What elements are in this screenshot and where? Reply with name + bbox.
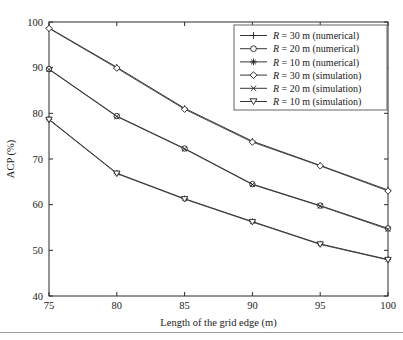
y-tick-label: 40 [33,291,44,302]
y-tick-label: 80 [33,108,44,119]
series-line [49,119,388,259]
x-tick-label: 85 [179,300,190,311]
bottom-divider [0,332,403,333]
legend-label: R = 20 m (numerical) [272,43,359,55]
series-5 [46,117,391,263]
x-tick-label: 100 [380,300,396,311]
series-2 [46,116,391,263]
legend-label: R = 20 m (simulation) [272,83,361,95]
y-tick-label: 50 [33,245,44,256]
y-tick-label: 100 [27,17,43,28]
marker-diamond [46,25,52,31]
y-tick-label: 90 [33,62,44,73]
marker-circle [251,46,257,52]
legend-label: R = 10 m (numerical) [272,57,359,69]
legend-label: R = 30 m (numerical) [272,30,359,42]
x-tick-label: 95 [315,300,326,311]
x-tick-label: 80 [112,300,123,311]
x-tick-label: 90 [247,300,258,311]
x-tick-label: 75 [44,300,55,311]
y-axis-title: ACP (%) [5,139,17,178]
figure-container: 7580859095100405060708090100Length of th… [0,0,403,340]
marker-diamond [385,188,391,194]
chart-plot: 7580859095100405060708090100Length of th… [0,0,403,340]
x-axis-title: Length of the grid edge (m) [160,317,277,329]
y-tick-label: 60 [33,199,44,210]
marker-triangle-down [385,257,391,262]
legend-label: R = 30 m (simulation) [272,70,361,82]
marker-diamond [317,163,323,169]
legend-label: R = 10 m (simulation) [272,96,361,108]
marker-star [250,59,257,66]
y-tick-label: 70 [33,154,44,165]
series-line [49,120,388,260]
